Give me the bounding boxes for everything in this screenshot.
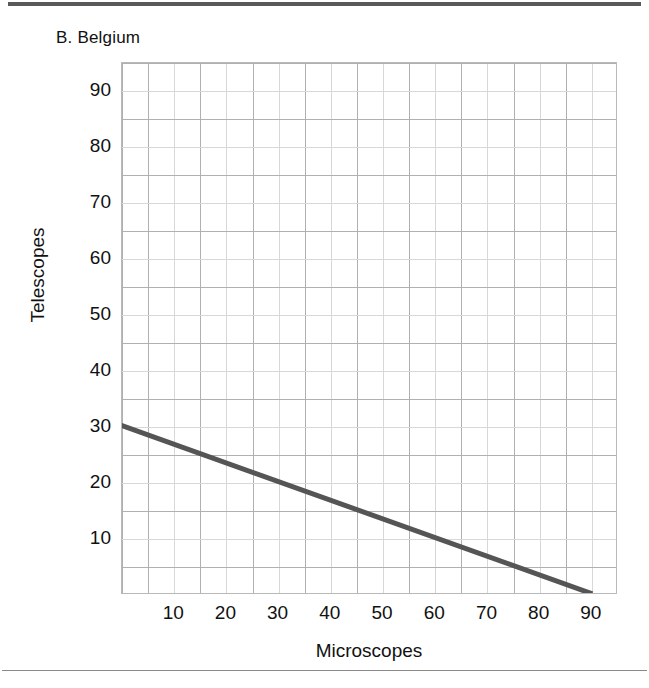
y-tick-label-60: 60 <box>59 247 111 269</box>
y-tick-label-40: 40 <box>59 359 111 381</box>
y-axis-title: Telescopes <box>27 185 49 365</box>
x-tick-label-30: 30 <box>267 602 288 624</box>
x-tick-label-70: 70 <box>476 602 497 624</box>
y-tick-label-70: 70 <box>59 191 111 213</box>
y-tick-label-30: 30 <box>59 415 111 437</box>
x-tick-label-10: 10 <box>163 602 184 624</box>
x-tick-label-60: 60 <box>424 602 445 624</box>
x-tick-label-50: 50 <box>371 602 392 624</box>
y-tick-label-20: 20 <box>59 471 111 493</box>
x-tick-label-40: 40 <box>319 602 340 624</box>
y-tick-label-90: 90 <box>59 79 111 101</box>
series-line-ppf <box>122 63 616 593</box>
panel-title: B. Belgium <box>56 28 140 48</box>
x-axis-title: Microscopes <box>121 640 617 662</box>
y-axis-tick-labels: 102030405060708090 <box>55 62 111 594</box>
y-tick-label-50: 50 <box>59 303 111 325</box>
figure-top-rule <box>8 2 641 6</box>
x-axis-tick-labels: 102030405060708090 <box>121 602 617 628</box>
y-tick-label-10: 10 <box>59 527 111 549</box>
plot-area <box>121 62 617 594</box>
y-tick-label-80: 80 <box>59 135 111 157</box>
figure-bottom-rule <box>2 670 647 671</box>
x-tick-label-20: 20 <box>215 602 236 624</box>
x-tick-label-90: 90 <box>580 602 601 624</box>
x-tick-label-80: 80 <box>528 602 549 624</box>
